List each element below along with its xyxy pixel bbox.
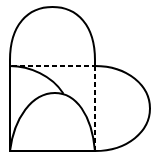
top-semicircle <box>10 7 95 66</box>
right-half-ellipse <box>95 66 150 151</box>
figure-svg <box>0 0 157 162</box>
inner-arc-lower <box>10 93 95 151</box>
inner-arc-upper <box>10 66 63 93</box>
geometry-figure <box>0 0 157 162</box>
